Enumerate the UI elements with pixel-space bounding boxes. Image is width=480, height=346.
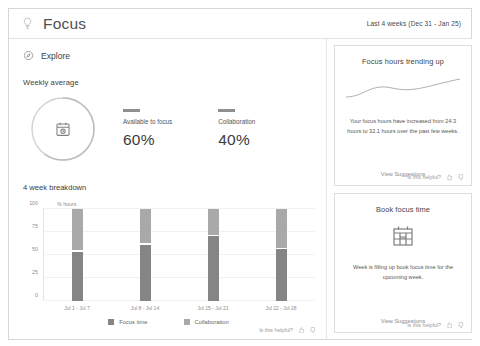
focus-window: Focus Last 4 weeks (Dec 31 - Jan 25) Exp… <box>8 8 472 340</box>
metric-collaboration: Collaboration 40% <box>218 109 255 149</box>
date-range-label: Last 4 weeks (Dec 31 - Jan 25) <box>367 20 461 27</box>
feedback-label: Is this helpful? <box>259 327 293 333</box>
legend-item-collaboration: Collaboration <box>184 319 229 325</box>
main-pane: Explore Weekly average <box>9 39 327 339</box>
legend-swatch <box>184 319 190 325</box>
breakdown-chart: 0255075100 Jul 1 - Jul 7Jul 8 - Jul 14Ju… <box>43 209 315 301</box>
insights-pane: Focus hours trending up Your focus hours… <box>327 39 479 339</box>
metric-rule <box>218 109 235 112</box>
chart-bar-group[interactable]: Jul 22 - Jul 28 <box>247 209 315 301</box>
calendar-icon <box>391 224 415 248</box>
titlebar-left: Focus <box>21 15 86 33</box>
card-title: Book focus time <box>376 205 430 214</box>
lightbulb-icon <box>21 16 34 31</box>
x-axis-tick: Jul 8 - Jul 14 <box>131 305 159 311</box>
app-root: Focus Last 4 weeks (Dec 31 - Jan 25) Exp… <box>0 0 480 346</box>
weekly-average-metrics: Available to focus 60% Collaboration 40% <box>123 109 255 149</box>
thumbs-up-icon[interactable] <box>446 322 453 329</box>
metric-rule <box>123 109 140 112</box>
y-axis-tick: 25 <box>32 269 38 275</box>
explore-nav-item[interactable]: Explore <box>23 50 316 61</box>
page-title: Focus <box>43 15 86 33</box>
bar-segment-collaboration[interactable] <box>140 209 151 243</box>
chart-bar-group[interactable]: Jul 8 - Jul 14 <box>111 209 179 301</box>
card-title: Focus hours trending up <box>362 57 444 66</box>
y-axis-unit-label: % hours <box>57 201 316 207</box>
y-axis-tick: 0 <box>35 292 38 298</box>
thumbs-down-icon[interactable] <box>458 174 465 181</box>
chart-bar-group[interactable]: Jul 1 - Jul 7 <box>43 209 111 301</box>
y-axis-tick: 50 <box>32 246 38 252</box>
metric-label: Collaboration <box>218 118 255 125</box>
compass-icon <box>23 50 34 61</box>
metric-value: 40% <box>218 131 255 149</box>
x-axis-tick: Jul 22 - Jul 28 <box>265 305 296 311</box>
sparkline-curve-icon <box>344 76 462 102</box>
legend-label: Collaboration <box>195 319 229 325</box>
meeting-clock-icon <box>55 121 72 138</box>
legend-swatch <box>108 319 114 325</box>
metric-available-to-focus: Available to focus 60% <box>123 109 172 149</box>
thumbs-down-icon[interactable] <box>310 327 317 334</box>
chart-legend: Focus time Collaboration <box>21 319 316 325</box>
thumbs-up-icon[interactable] <box>446 174 453 181</box>
card-feedback: Is this helpful? <box>407 174 464 181</box>
y-axis-tick: 100 <box>29 200 38 206</box>
breakdown-title: 4 week breakdown <box>23 183 316 192</box>
bar-segment-focus-time[interactable] <box>276 249 287 301</box>
legend-item-focus-time: Focus time <box>108 319 147 325</box>
insight-card-focus-trending[interactable]: Focus hours trending up Your focus hours… <box>334 45 472 186</box>
bar-segment-focus-time[interactable] <box>140 245 151 301</box>
card-body: Your focus hours have increased from 24.… <box>344 116 462 137</box>
card-body: Week is filling up book focus time for t… <box>344 262 462 283</box>
thumbs-up-icon[interactable] <box>298 327 305 334</box>
weekly-average-row: Available to focus 60% Collaboration 40% <box>21 93 316 165</box>
insight-card-book-focus-time[interactable]: Book focus time Week is filling up book … <box>334 193 472 334</box>
bar-segment-collaboration[interactable] <box>276 209 287 248</box>
thumbs-down-icon[interactable] <box>458 322 465 329</box>
metric-value: 60% <box>123 131 172 149</box>
weekly-average-title: Weekly average <box>23 78 316 87</box>
chart-bars: Jul 1 - Jul 7Jul 8 - Jul 14Jul 15 - Jul … <box>43 209 315 301</box>
bar-segment-collaboration[interactable] <box>208 209 219 235</box>
card-feedback: Is this helpful? <box>407 322 464 329</box>
explore-label: Explore <box>41 51 70 61</box>
bar-segment-collaboration[interactable] <box>72 209 83 250</box>
window-body: Explore Weekly average <box>9 39 471 339</box>
weekly-average-donut <box>27 93 99 165</box>
y-axis-tick: 75 <box>32 223 38 229</box>
bar-segment-focus-time[interactable] <box>208 236 219 301</box>
breakdown-feedback: Is this helpful? <box>259 327 316 334</box>
feedback-label: Is this helpful? <box>407 322 441 328</box>
x-axis-tick: Jul 1 - Jul 7 <box>64 305 90 311</box>
feedback-label: Is this helpful? <box>407 174 441 180</box>
chart-bar-group[interactable]: Jul 15 - Jul 21 <box>179 209 247 301</box>
legend-label: Focus time <box>119 319 147 325</box>
window-titlebar: Focus Last 4 weeks (Dec 31 - Jan 25) <box>9 9 471 39</box>
metric-label: Available to focus <box>123 118 172 125</box>
bar-segment-focus-time[interactable] <box>72 252 83 301</box>
x-axis-tick: Jul 15 - Jul 21 <box>197 305 228 311</box>
